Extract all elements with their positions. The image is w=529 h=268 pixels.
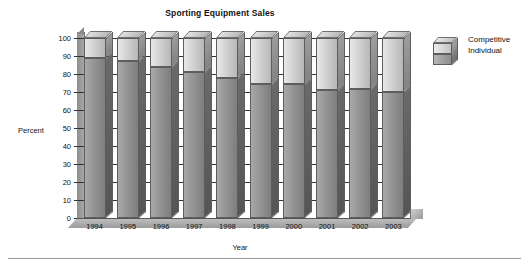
chart-title: Sporting Equipment Sales — [0, 8, 440, 18]
x-tick-label-1998: 1998 — [211, 222, 244, 231]
x-tick-label-2002: 2002 — [344, 222, 377, 231]
bar-segment-individual-1999[interactable] — [250, 84, 272, 218]
bar-segment-individual-1994[interactable] — [84, 58, 106, 218]
bar-side-individual-2003 — [404, 86, 411, 218]
x-tick-label-1996: 1996 — [144, 222, 177, 231]
y-axis-3d-cap — [77, 27, 84, 34]
bottom-divider — [8, 258, 521, 259]
bar-segment-competitive-2002[interactable] — [349, 38, 371, 89]
bar-segment-competitive-1997[interactable] — [183, 38, 205, 72]
x-tick-label-2003: 2003 — [377, 222, 410, 231]
x-tick-label-1995: 1995 — [111, 222, 144, 231]
y-tick-label-70: 70 — [63, 88, 71, 97]
legend-swatch-icon — [433, 37, 459, 67]
bar-side-competitive-2001 — [338, 32, 345, 90]
bar-segment-individual-1997[interactable] — [183, 72, 205, 218]
bar-segment-individual-2000[interactable] — [283, 84, 305, 218]
bar-side-individual-1995 — [139, 55, 146, 218]
bar-segment-competitive-1998[interactable] — [216, 38, 238, 78]
y-tick-label-30: 30 — [63, 160, 71, 169]
bar-side-competitive-2000 — [305, 32, 312, 84]
legend-cube-face-competitive — [433, 43, 452, 54]
bar-segment-competitive-1999[interactable] — [250, 38, 272, 84]
bar-1994[interactable] — [84, 38, 106, 218]
bar-1995[interactable] — [117, 38, 139, 218]
bar-side-individual-2002 — [371, 83, 378, 218]
y-tick-label-10: 10 — [63, 196, 71, 205]
chart-container: Sporting Equipment Sales Percent 1009080… — [0, 0, 529, 268]
x-tick-label-1999: 1999 — [244, 222, 277, 231]
legend-item-competitive: Competitive — [468, 35, 510, 44]
bar-side-individual-1999 — [272, 78, 279, 218]
y-tick-label-90: 90 — [63, 52, 71, 61]
y-tick-label-50: 50 — [63, 124, 71, 133]
plot-floor-tip — [410, 209, 423, 219]
bar-side-individual-1996 — [172, 61, 179, 218]
bar-1999[interactable] — [250, 38, 272, 218]
plot-area: 1009080706050403020100 — [78, 38, 410, 218]
bar-segment-competitive-2000[interactable] — [283, 38, 305, 84]
x-tick-label-2001: 2001 — [310, 222, 343, 231]
y-tick-label-0: 0 — [67, 214, 71, 223]
bar-segment-individual-1995[interactable] — [117, 61, 139, 218]
plot-inner: 1009080706050403020100 — [78, 38, 410, 218]
y-tick-label-20: 20 — [63, 178, 71, 187]
bar-segment-individual-2002[interactable] — [349, 89, 371, 218]
y-tick-label-100: 100 — [58, 34, 71, 43]
y-tick-label-80: 80 — [63, 70, 71, 79]
bar-segment-individual-2001[interactable] — [316, 90, 338, 218]
bar-segment-individual-1998[interactable] — [216, 78, 238, 218]
bar-2003[interactable] — [382, 38, 404, 218]
legend-cube-face-individual — [433, 54, 452, 65]
bar-segment-competitive-1996[interactable] — [150, 38, 172, 67]
legend-item-individual: Individual — [468, 46, 502, 55]
bar-segment-competitive-2003[interactable] — [382, 38, 404, 92]
bar-2001[interactable] — [316, 38, 338, 218]
bar-segment-individual-2003[interactable] — [382, 92, 404, 218]
bar-side-competitive-1999 — [272, 32, 279, 84]
bar-side-competitive-2002 — [371, 32, 378, 90]
bar-side-individual-1994 — [106, 52, 113, 218]
bar-segment-individual-1996[interactable] — [150, 67, 172, 218]
x-tick-label-1994: 1994 — [78, 222, 111, 231]
bar-1997[interactable] — [183, 38, 205, 218]
bar-side-competitive-2003 — [404, 32, 411, 92]
bar-side-individual-2000 — [305, 78, 312, 218]
x-tick-label-1997: 1997 — [178, 222, 211, 231]
x-tick-label-2000: 2000 — [277, 222, 310, 231]
bar-side-individual-2001 — [338, 84, 345, 218]
bar-side-individual-1998 — [238, 71, 245, 218]
bar-2002[interactable] — [349, 38, 371, 218]
bar-1996[interactable] — [150, 38, 172, 218]
bar-segment-competitive-1994[interactable] — [84, 38, 106, 58]
bar-2000[interactable] — [283, 38, 305, 218]
y-tick-label-40: 40 — [63, 142, 71, 151]
bar-side-individual-1997 — [205, 66, 212, 218]
x-axis-title: Year — [75, 243, 405, 252]
bar-segment-competitive-2001[interactable] — [316, 38, 338, 90]
y-axis-title: Percent — [18, 126, 44, 135]
bar-1998[interactable] — [216, 38, 238, 218]
bar-segment-competitive-1995[interactable] — [117, 38, 139, 61]
y-tick-label-60: 60 — [63, 106, 71, 115]
